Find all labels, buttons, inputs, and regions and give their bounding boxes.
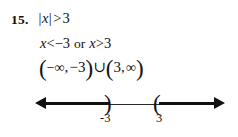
problem-number: 15. <box>11 12 28 28</box>
solution-right-value: 3 <box>104 35 111 51</box>
solution-compound-inequality: x<−3orx>3 <box>40 36 111 51</box>
interval-open-paren-1: ( <box>39 56 47 81</box>
number-line-graph: ) ( -3 3 <box>0 86 238 137</box>
interval-comma-1: , <box>65 59 69 75</box>
negative-infinity: −∞ <box>47 60 65 75</box>
interval-close-paren-2: ) <box>136 56 144 81</box>
left-arrow-icon <box>35 97 46 109</box>
tick-label-negative-three: -3 <box>100 112 110 125</box>
right-arrow-icon <box>214 97 225 109</box>
solution-conjunction: or <box>70 36 89 51</box>
solution-left-relation: < <box>46 35 54 51</box>
math-problem-15: 15. |x|>3 x<−3orx>3 (−∞, −3)∪(3, ∞) ) ( … <box>0 0 238 137</box>
solution-ray-left <box>44 102 110 105</box>
interval-right-bound: 3 <box>113 59 121 75</box>
union-symbol: ∪ <box>93 59 106 75</box>
solution-right-relation: > <box>96 35 104 51</box>
inequality-relation: > <box>52 10 62 26</box>
tick-label-positive-three: 3 <box>156 112 162 125</box>
inequality-value: 3 <box>62 10 69 26</box>
solution-left-value: −3 <box>55 35 70 51</box>
solution-ray-right <box>159 102 217 105</box>
absolute-value-inequality: |x|>3 <box>38 11 70 26</box>
interval-comma-2: , <box>121 59 125 75</box>
interval-notation: (−∞, −3)∪(3, ∞) <box>39 57 144 80</box>
interval-left-bound: −3 <box>70 59 86 75</box>
positive-infinity: ∞ <box>126 60 136 75</box>
